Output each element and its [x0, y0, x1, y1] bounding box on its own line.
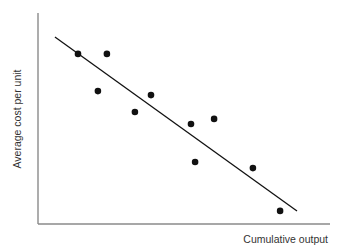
data-point [148, 92, 155, 99]
data-point [75, 51, 82, 58]
trend-line [55, 37, 297, 211]
data-point [188, 121, 195, 128]
data-point [211, 116, 218, 123]
data-point [95, 88, 102, 95]
data-point [250, 165, 257, 172]
data-points [75, 51, 284, 215]
x-axis-label: Cumulative output [243, 233, 328, 245]
data-point [132, 109, 139, 116]
scatter-chart: Cumulative output Average cost per unit [0, 0, 345, 250]
y-axis-label: Average cost per unit [11, 69, 23, 168]
data-point [104, 51, 111, 58]
data-point [277, 208, 284, 215]
data-point [192, 159, 199, 166]
